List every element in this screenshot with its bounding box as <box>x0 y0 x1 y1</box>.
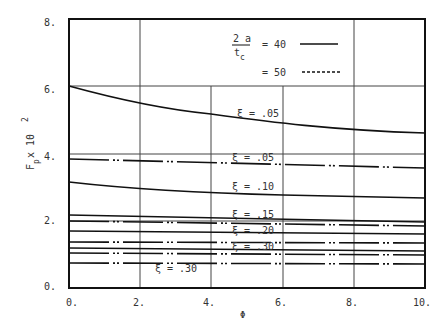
annotation-xi-05-dashed: ξ = .05 <box>232 152 274 163</box>
line-xi-30-40b <box>69 253 425 255</box>
y-tick-4: 4. <box>44 151 56 162</box>
x-tick-6: 6. <box>275 297 287 308</box>
annotation-xi-10: ξ = .10 <box>232 181 274 192</box>
legend-numerator: 2 a <box>233 33 251 44</box>
x-tick-0: 0. <box>66 297 78 308</box>
legend-50: = 50 <box>262 67 286 78</box>
y-tick-8: 8. <box>44 17 56 28</box>
x-tick-10: 10. <box>413 297 431 308</box>
y-label-sup: 2 <box>21 117 30 122</box>
y-tick-6: 6. <box>44 84 56 95</box>
legend-denominator-sub: c <box>240 53 245 62</box>
y-label-rest: x 10 <box>25 134 36 158</box>
annotation-xi-20: ξ = .20 <box>232 225 274 236</box>
y-tick-0: 0. <box>44 281 56 292</box>
legend-40: = 40 <box>262 39 286 50</box>
x-tick-2: 2. <box>133 297 145 308</box>
y-axis-label: F p x 10 2 <box>21 117 41 170</box>
x-axis-label: Φ <box>240 310 245 320</box>
annotation-xi-30-lower: ξ = .30 <box>155 263 197 274</box>
y-tick-2: 2. <box>44 215 56 226</box>
line-xi-30-50 <box>69 263 425 264</box>
annotation-xi-05: ξ = .05 <box>237 108 279 119</box>
chart: 2 a t c = 40 = 50 ξ = .05 ξ = .05 ξ = .1… <box>0 0 443 332</box>
x-tick-4: 4. <box>203 297 215 308</box>
annotation-xi-15: ξ = .15 <box>232 209 274 220</box>
x-tick-8: 8. <box>346 297 358 308</box>
annotation-xi-30: ξ = .30 <box>232 241 274 252</box>
y-label-sub: p <box>32 159 41 164</box>
